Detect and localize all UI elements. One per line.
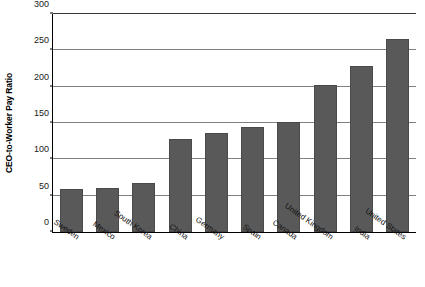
bar-germany xyxy=(205,133,228,232)
y-tick-label: 250 xyxy=(34,35,49,45)
y-tick-label: 200 xyxy=(34,72,49,82)
x-axis-labels: SwedenMexicoSouth KoreaChinaGermanySpain… xyxy=(52,234,415,287)
plot-area: 050100150200250300 xyxy=(52,14,416,233)
bar-spain xyxy=(241,127,264,232)
y-tick-mark xyxy=(50,231,54,232)
bar-china xyxy=(169,139,192,232)
y-tick-mark xyxy=(50,158,54,159)
y-tick-label: 100 xyxy=(34,144,49,154)
bar-united-states xyxy=(386,39,409,232)
gridline-250 xyxy=(53,49,416,50)
gridline-300 xyxy=(53,13,416,14)
y-tick-label: 300 xyxy=(34,0,49,9)
y-tick-mark xyxy=(50,194,54,195)
y-tick-mark xyxy=(50,49,54,50)
y-tick-label: 50 xyxy=(39,181,49,191)
ceo-to-worker-pay-ratio-bar-chart: CEO-to-Worker Pay Ratio 0501001502002503… xyxy=(0,0,425,287)
y-tick-mark xyxy=(50,13,54,14)
bar-united-kingdom xyxy=(314,85,337,232)
y-tick-label: 0 xyxy=(44,217,49,227)
y-axis-title: CEO-to-Worker Pay Ratio xyxy=(2,14,16,232)
y-tick-label: 150 xyxy=(34,108,49,118)
y-tick-mark xyxy=(50,85,54,86)
y-tick-mark xyxy=(50,122,54,123)
